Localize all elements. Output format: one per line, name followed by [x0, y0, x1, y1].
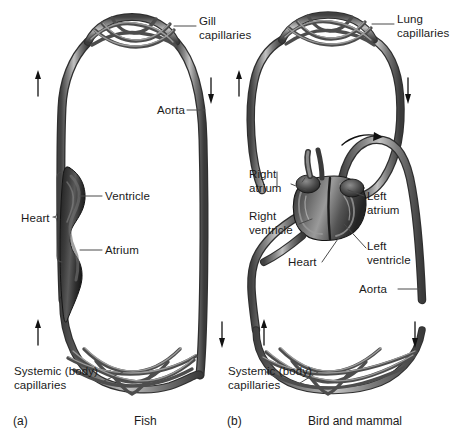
label-heart-fish: Heart: [21, 212, 50, 226]
panel-letter-b: (b): [227, 414, 242, 428]
label-ventricle: Ventricle: [105, 190, 150, 204]
label-right-ventricle: Right ventricle: [249, 210, 293, 237]
label-aorta-fish: Aorta: [157, 104, 185, 118]
label-atrium: Atrium: [105, 244, 139, 258]
fish-circuit: [35, 17, 225, 394]
label-heart-bird: Heart: [288, 256, 317, 270]
fish-leader-lines: [80, 26, 205, 381]
four-chambered-heart: [264, 150, 366, 262]
label-gill-capillaries: Gill capillaries: [199, 15, 251, 42]
label-systemic-capillaries-fish: Systemic (body) capillaries: [14, 365, 98, 392]
label-systemic-capillaries-bird: Systemic (body) capillaries: [228, 365, 312, 392]
circulatory-systems-figure: Gill capillaries Aorta Ventricle Heart A…: [0, 0, 462, 440]
label-right-atrium: Right atrium: [249, 168, 282, 195]
label-lung-capillaries: Lung capillaries: [397, 13, 449, 40]
panel-letter-a: (a): [13, 414, 28, 428]
label-left-atrium: Left atrium: [367, 190, 400, 217]
label-left-ventricle: Left ventricle: [367, 240, 411, 267]
panel-caption-bird-mammal: Bird and mammal: [308, 414, 402, 428]
label-aorta-bird: Aorta: [359, 283, 387, 297]
panel-caption-fish: Fish: [134, 414, 157, 428]
